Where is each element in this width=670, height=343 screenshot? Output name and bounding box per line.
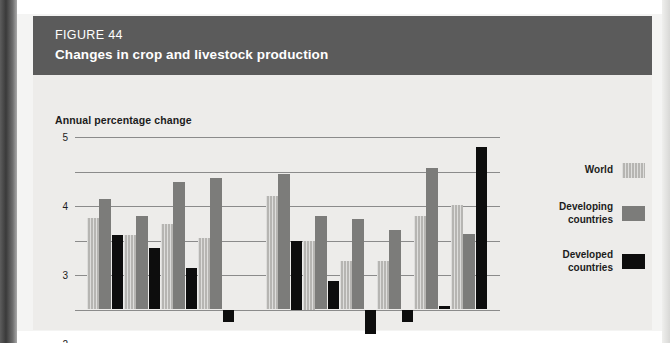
page-right-edge	[662, 0, 670, 343]
page-left-edge-shadow	[0, 0, 17, 343]
scanned-page: FIGURE 44 Changes in crop and livestock …	[0, 0, 670, 343]
bar-developed-81-90	[186, 268, 198, 309]
bar-world-02	[377, 261, 389, 309]
bar-developing-62-70	[99, 199, 111, 309]
legend-label: Developing countries	[559, 201, 613, 226]
bar-developing-81-90	[173, 182, 185, 310]
bar-developed-62-70	[112, 235, 124, 309]
bar-developing-01	[352, 219, 364, 309]
bar-world-81-90	[161, 224, 173, 310]
bar-developed-03	[439, 306, 451, 309]
legend-swatch-developed	[622, 254, 645, 269]
bar-developing-71-80	[136, 216, 148, 309]
legend-label: Developed countries	[562, 249, 613, 274]
bar-world-62-70	[87, 218, 99, 309]
bar-developing-02	[389, 230, 401, 309]
legend-swatch-developing	[622, 206, 645, 221]
page-top-margin	[17, 0, 670, 14]
bar-developed-71-80	[149, 248, 161, 309]
bar-world-99	[266, 196, 278, 310]
chart-body: Annual percentage change 543210-1 62–707…	[33, 75, 652, 330]
bar-developed-02	[402, 310, 414, 322]
bar-world-71-80	[124, 235, 136, 309]
bar-developed-00	[328, 281, 340, 309]
y-axis-tick-label: 5	[62, 132, 68, 143]
plot-area: 543210-1	[75, 137, 500, 343]
bar-world-04	[451, 205, 463, 309]
bar-developed-04	[476, 147, 488, 310]
y-axis-title: Annual percentage change	[55, 114, 192, 126]
figure-number: FIGURE 44	[55, 27, 652, 43]
bar-world-91-98	[198, 238, 210, 309]
bar-developing-04	[463, 234, 475, 310]
y-axis-tick-label: 3	[62, 270, 68, 281]
bar-developing-99	[278, 174, 290, 309]
legend-item-developing: Developing countries	[515, 201, 645, 226]
bar-developed-01	[365, 310, 377, 335]
bar-world-00	[303, 241, 315, 310]
bar-developing-03	[426, 168, 438, 309]
y-axis-tick-label: 4	[62, 201, 68, 212]
figure-title: Changes in crop and livestock production	[55, 45, 652, 64]
bar-developed-91-98	[223, 310, 235, 322]
figure-card: FIGURE 44 Changes in crop and livestock …	[33, 16, 652, 330]
bar-world-01	[340, 261, 352, 309]
bar-world-03	[414, 216, 426, 309]
bar-developed-99	[291, 241, 303, 310]
legend-swatch-world	[622, 163, 645, 178]
bar-developing-00	[315, 216, 327, 310]
y-axis-tick-label: 2	[62, 339, 68, 343]
bars-layer	[75, 137, 500, 343]
bar-developing-91-98	[210, 178, 222, 310]
legend-label: World	[585, 164, 613, 177]
figure-header-band: FIGURE 44 Changes in crop and livestock …	[33, 16, 652, 75]
legend-item-world: World	[515, 163, 645, 178]
legend-item-developed: Developed countries	[515, 249, 645, 274]
chart-legend: WorldDeveloping countriesDeveloped count…	[515, 163, 645, 297]
